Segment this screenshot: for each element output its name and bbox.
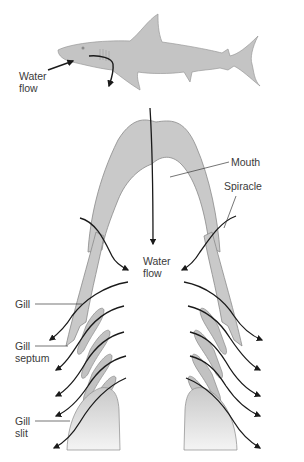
mouth-label: Mouth (231, 156, 260, 168)
gill-slit-label: Gill slit (15, 415, 30, 439)
gill-septum-label: Gill septum (15, 340, 49, 364)
left-body-wall (67, 388, 120, 450)
water-flow-in-arrow (48, 61, 73, 70)
right-body-wall (184, 388, 237, 450)
water-flow-label-top: Water flow (19, 70, 47, 94)
spiracle-label: Spiracle (224, 180, 262, 192)
shark-eye-icon (82, 47, 85, 50)
water-flow-label-center: Water flow (143, 255, 171, 279)
gill-label: Gill (15, 298, 30, 310)
shark-illustration (58, 14, 260, 90)
mouth-tissue (88, 120, 220, 252)
